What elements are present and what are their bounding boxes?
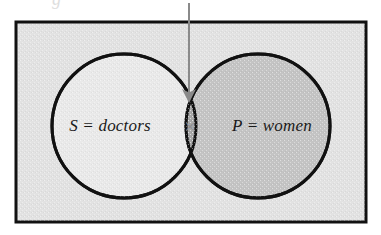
venn-diagram-figure: g rr <box>0 0 381 235</box>
set-label-doctors: S = doctors <box>69 116 151 135</box>
set-label-women: P = women <box>231 116 312 135</box>
venn-canvas: × S = doctors P = women <box>0 0 381 235</box>
intersection-element-mark: × <box>185 116 196 137</box>
